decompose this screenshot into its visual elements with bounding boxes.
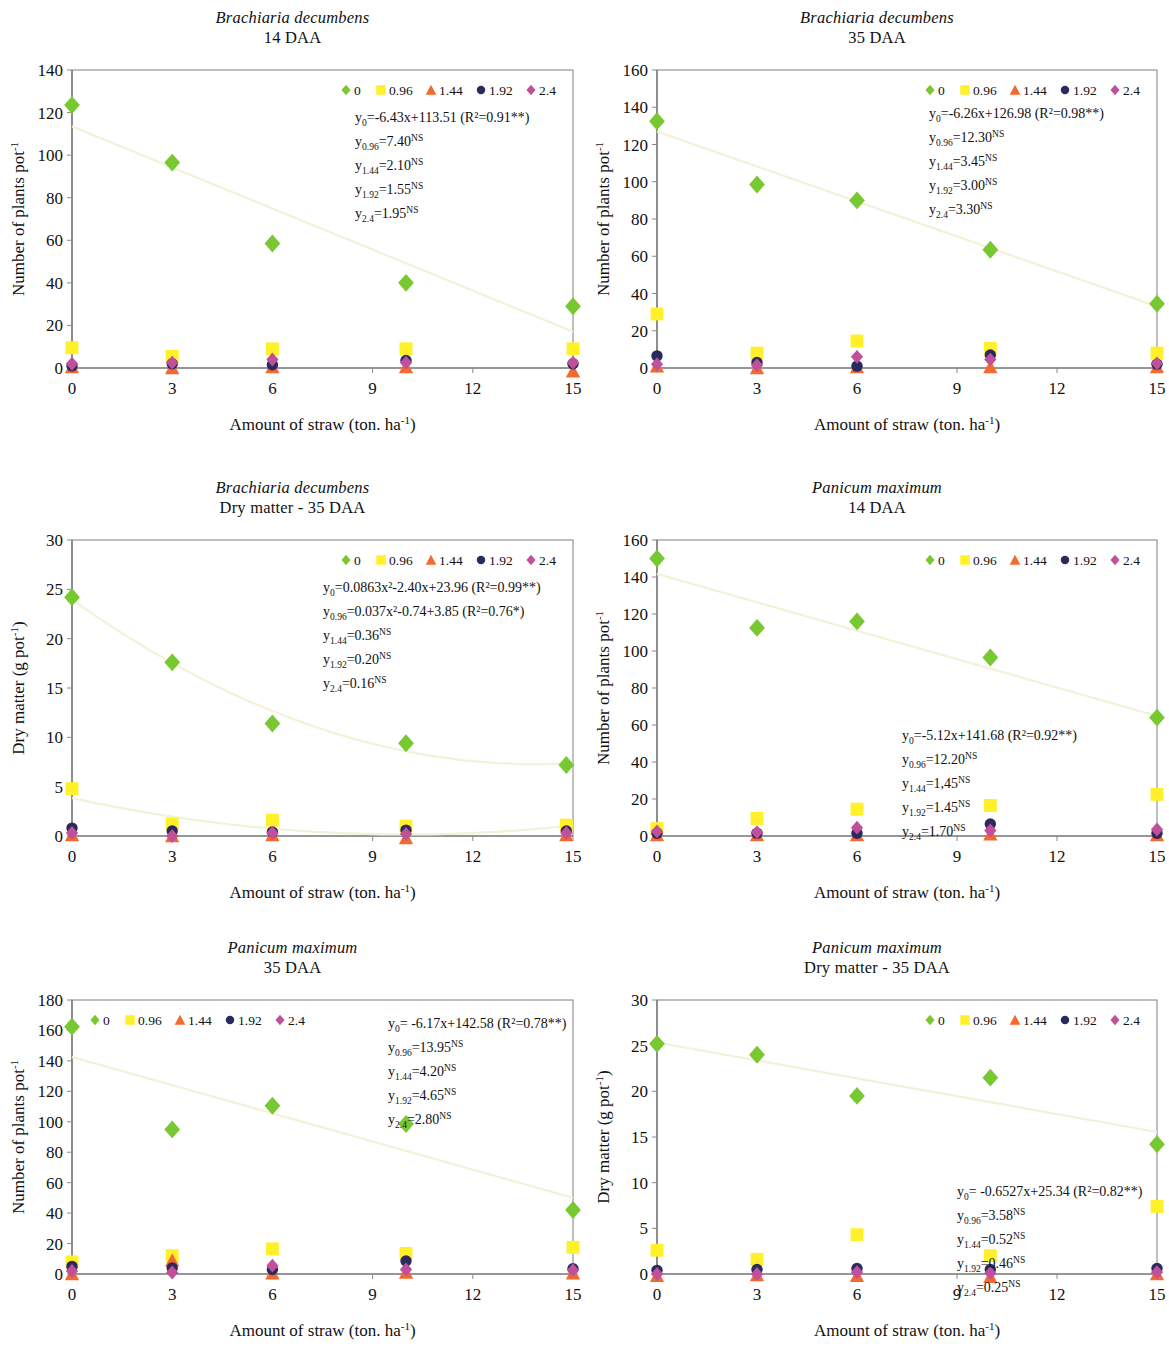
data-point-series-0 bbox=[982, 1069, 998, 1087]
legend-label-0.96: 0.96 bbox=[389, 83, 413, 98]
equation-block-5: y0= -0.6527x+25.34 (R²=0.82**)y0.96=3.58… bbox=[957, 1184, 1143, 1298]
legend-label-2.4: 2.4 bbox=[1123, 1013, 1140, 1028]
y-tick-label: 20 bbox=[631, 322, 648, 341]
y-tick-label: 5 bbox=[640, 1220, 649, 1239]
x-tick-label: 9 bbox=[368, 379, 377, 398]
data-point-series-0.96 bbox=[651, 308, 664, 321]
chart-title-sub-4: 35 DAA bbox=[0, 958, 585, 978]
x-tick-label: 9 bbox=[368, 847, 377, 866]
data-point-series-0 bbox=[849, 192, 865, 210]
legend-marker-1.92 bbox=[1061, 86, 1069, 94]
y-tick-label: 120 bbox=[38, 1083, 64, 1102]
chart-title-sub-3: 14 DAA bbox=[585, 498, 1169, 518]
x-tick-label: 6 bbox=[268, 847, 277, 866]
x-axis-title-1: Amount of straw (ton. ha-1) bbox=[814, 414, 1000, 434]
chart-title-2: Brachiaria decumbens Dry matter - 35 DAA bbox=[0, 470, 585, 518]
chart-plot-5: 05101520253003691215Amount of straw (ton… bbox=[585, 978, 1169, 1361]
y-tick-label: 5 bbox=[55, 778, 64, 797]
legend-marker-0.96 bbox=[960, 86, 969, 95]
equation-line-1: y0.96=13.95NS bbox=[388, 1039, 463, 1058]
y-tick-label: 15 bbox=[46, 679, 63, 698]
chart-title-5: Panicum maximum Dry matter - 35 DAA bbox=[585, 930, 1169, 978]
equation-line-4: y2.4=0.25NS bbox=[957, 1279, 1020, 1298]
equation-line-0: y0=-5.12x+141.68 (R²=0.92**) bbox=[902, 728, 1077, 746]
legend-marker-0 bbox=[925, 555, 934, 565]
trendline-1 bbox=[657, 132, 1157, 307]
legend-marker-0.96 bbox=[125, 1016, 134, 1025]
axis-lines-3 bbox=[657, 540, 1157, 836]
y-tick-label: 80 bbox=[631, 210, 648, 229]
equation-line-1: y0.96=7.40NS bbox=[355, 133, 423, 152]
y-axis-title-5: Dry matter (g pot-1) bbox=[593, 1071, 613, 1204]
legend-marker-0 bbox=[341, 85, 350, 95]
data-point-series-0.96 bbox=[851, 1229, 864, 1242]
legend-2: 00.961.441.922.4 bbox=[341, 553, 556, 568]
data-point-series-0 bbox=[565, 1201, 581, 1219]
equation-line-2: y1.44=1,45NS bbox=[902, 775, 970, 794]
y-tick-label: 40 bbox=[46, 274, 63, 293]
x-tick-label: 15 bbox=[1149, 847, 1166, 866]
data-point-series-0 bbox=[558, 756, 574, 774]
y-tick-label: 100 bbox=[38, 146, 64, 165]
data-points-2 bbox=[64, 589, 574, 845]
axis-lines-4 bbox=[72, 1000, 573, 1274]
legend-label-2.4: 2.4 bbox=[1123, 83, 1140, 98]
chart-panel-5: Panicum maximum Dry matter - 35 DAA 0510… bbox=[585, 930, 1169, 1361]
y-tick-label: 80 bbox=[46, 189, 63, 208]
y-tick-label: 0 bbox=[55, 1265, 64, 1284]
legend-marker-1.92 bbox=[477, 86, 485, 94]
x-tick-label: 12 bbox=[1049, 1285, 1066, 1304]
equation-line-2: y1.44=3.45NS bbox=[929, 153, 997, 172]
legend-label-2.4: 2.4 bbox=[539, 553, 556, 568]
chart-svg-3: 02040608010012014016003691215Amount of s… bbox=[585, 518, 1169, 938]
y-tick-label: 120 bbox=[623, 605, 649, 624]
y-tick-label: 180 bbox=[38, 991, 64, 1010]
plot-frame-4 bbox=[72, 1000, 573, 1274]
equation-line-4: y2.4=1.70NS bbox=[902, 823, 965, 842]
axis-lines-5 bbox=[657, 1000, 1157, 1274]
legend-marker-1.92 bbox=[1061, 556, 1069, 564]
y-tick-label: 0 bbox=[640, 1265, 649, 1284]
equation-line-3: y1.92=1.55NS bbox=[355, 181, 423, 200]
legend-marker-1.92 bbox=[226, 1016, 234, 1024]
chart-svg-4: 02040608010012014016018003691215Amount o… bbox=[0, 978, 585, 1361]
data-point-series-0 bbox=[1149, 295, 1165, 313]
y-tick-label: 15 bbox=[631, 1128, 648, 1147]
figure-panel-grid: Brachiaria decumbens 14 DAA 020406080100… bbox=[0, 0, 1169, 1361]
legend-label-0.96: 0.96 bbox=[973, 83, 997, 98]
legend-label-2.4: 2.4 bbox=[1123, 553, 1140, 568]
y-tick-label: 20 bbox=[46, 1235, 63, 1254]
legend-marker-0 bbox=[341, 555, 350, 565]
y-tick-label: 100 bbox=[623, 173, 649, 192]
data-point-series-0.96 bbox=[651, 1244, 664, 1257]
legend-label-0: 0 bbox=[354, 553, 361, 568]
y-tick-label: 0 bbox=[55, 359, 64, 378]
legend-marker-1.44 bbox=[1010, 85, 1021, 95]
y-tick-label: 0 bbox=[640, 359, 649, 378]
y-tick-label: 160 bbox=[38, 1022, 64, 1041]
x-tick-label: 15 bbox=[565, 1285, 582, 1304]
y-tick-label: 140 bbox=[623, 568, 649, 587]
data-points-1 bbox=[649, 113, 1165, 375]
y-tick-label: 30 bbox=[46, 531, 63, 550]
y-tick-label: 60 bbox=[46, 1174, 63, 1193]
legend-label-1.44: 1.44 bbox=[439, 83, 463, 98]
chart-svg-5: 05101520253003691215Amount of straw (ton… bbox=[585, 978, 1169, 1361]
y-tick-label: 140 bbox=[38, 61, 64, 80]
equation-line-2: y1.44=0.52NS bbox=[957, 1231, 1025, 1250]
y-tick-label: 140 bbox=[623, 99, 649, 118]
x-axis-title-5: Amount of straw (ton. ha-1) bbox=[814, 1320, 1000, 1340]
y-tick-label: 40 bbox=[46, 1204, 63, 1223]
x-tick-label: 0 bbox=[653, 379, 662, 398]
chart-panel-4: Panicum maximum 35 DAA 02040608010012014… bbox=[0, 930, 585, 1361]
equation-line-1: y0.96=3.58NS bbox=[957, 1207, 1025, 1226]
data-point-series-0 bbox=[398, 274, 414, 292]
equation-line-0: y0= -0.6527x+25.34 (R²=0.82**) bbox=[957, 1184, 1143, 1202]
equation-line-4: y2.4=0.16NS bbox=[323, 675, 386, 694]
legend-marker-2.4 bbox=[275, 1015, 284, 1025]
chart-title-species-1: Brachiaria decumbens bbox=[585, 8, 1169, 28]
legend-marker-1.44 bbox=[1010, 555, 1021, 565]
chart-title-species-0: Brachiaria decumbens bbox=[0, 8, 585, 28]
y-axis-title-1: Number of plants pot-1 bbox=[593, 142, 613, 296]
data-point-series-0 bbox=[749, 619, 765, 637]
